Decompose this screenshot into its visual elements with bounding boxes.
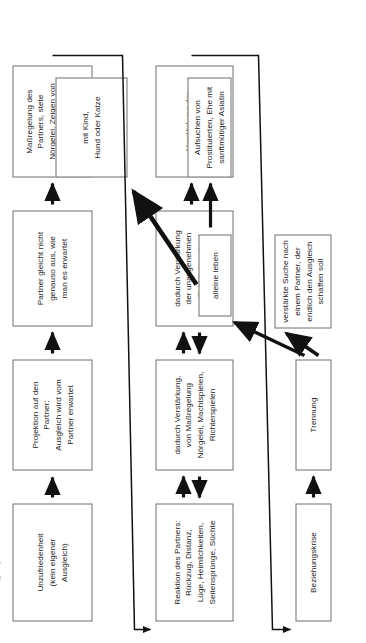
box-reaktion-des-partners-label: Reaktion des Partners: Rückzug, Distanz,… xyxy=(171,520,218,605)
arrow-pair-reaktion-verstaerkung xyxy=(183,476,199,497)
box-dadurch-verstaerkung-massregelung-label: dadurch Verstärkung, von Maßregelung Nör… xyxy=(171,371,218,458)
box-beziehungskrise: Beziehungskrise xyxy=(295,503,331,621)
box-verstaerkte-suche: verstärkte Suche nach einem Partner, der… xyxy=(274,234,331,328)
box-projektion-auf-partner: Projektion auf den Partner: Ausgleich wi… xyxy=(12,359,92,470)
box-trennung-label: Trennung xyxy=(307,397,319,432)
box-trennung: Trennung xyxy=(295,359,331,470)
box-mit-kind-hund-katze-label: mit Kind, Hund oder Katze xyxy=(79,96,102,158)
box-aufsuchen-prostituierte-label: Aufsuchen von Prostituierten, Ehe mit sa… xyxy=(191,86,226,168)
diagram-canvas: Beziehungsdynamik Unzufriedenheit (kein … xyxy=(0,0,366,643)
box-partner-gleicht-nicht: Partner gleicht nicht genauso aus, wie m… xyxy=(12,210,92,326)
box-verstaerkte-suche-label: verstärkte Suche nach einem Partner, der… xyxy=(279,240,326,323)
rotated-diagram-stage: Beziehungsdynamik Unzufriedenheit (kein … xyxy=(0,0,366,643)
box-projektion-auf-partner-label: Projektion auf den Partner: Ausgleich wi… xyxy=(29,379,76,451)
box-alleine-leben: alleine leben xyxy=(198,234,231,316)
box-beziehungskrise-label: Beziehungskrise xyxy=(307,532,319,593)
box-reaktion-des-partners: Reaktion des Partners: Rückzug, Distanz,… xyxy=(155,503,233,621)
box-alleine-leben-label: alleine leben xyxy=(209,252,221,299)
box-unzufriedenheit: Unzufriedenheit (kein eigener Ausgleich) xyxy=(12,503,92,621)
box-partner-gleicht-nicht-label: Partner gleicht nicht genauso aus, wie m… xyxy=(34,231,69,305)
arrow-pair-verstaerkung-reaktionen xyxy=(183,332,199,353)
branch-trennung-to-verstaerkte-suche xyxy=(286,333,318,355)
box-mit-kind-hund-katze: mit Kind, Hund oder Katze xyxy=(55,77,127,177)
box-dadurch-verstaerkung-massregelung: dadurch Verstärkung, von Maßregelung Nör… xyxy=(155,359,233,470)
box-unzufriedenheit-label: Unzufriedenheit (kein eigener Ausgleich) xyxy=(34,533,69,591)
box-aufsuchen-prostituierte: Aufsuchen von Prostituierten, Ehe mit sa… xyxy=(187,77,231,177)
